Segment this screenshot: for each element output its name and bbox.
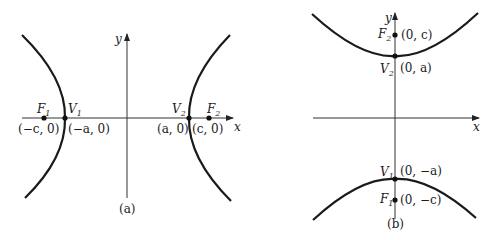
caption-a: (a) bbox=[119, 202, 136, 216]
panel-a: y x F1 V1 V2 F2 (−c, 0) (−a, 0) (a, 0) (… bbox=[18, 32, 241, 216]
label-v1-a: V1 bbox=[68, 102, 82, 118]
label-f1-b: F1 bbox=[379, 192, 393, 208]
coord-v1-a: (−a, 0) bbox=[68, 122, 110, 136]
coord-f1-b: (0, −c) bbox=[400, 193, 441, 207]
focus-f2-dot-b bbox=[392, 32, 397, 37]
vertex-v2-dot bbox=[186, 115, 191, 120]
label-f2-a: F2 bbox=[206, 102, 220, 118]
label-v2-a: V2 bbox=[172, 102, 186, 118]
hyperbola-figure: y x F1 V1 V2 F2 (−c, 0) (−a, 0) (a, 0) (… bbox=[0, 0, 492, 240]
coord-v2-a: (a, 0) bbox=[157, 122, 189, 136]
x-axis-label-b: x bbox=[473, 120, 480, 134]
panel-b: y x F2 V2 V1 F1 (0, c) (0, a) (0, −a) (0… bbox=[312, 11, 480, 231]
vertex-v1-dot bbox=[62, 115, 67, 120]
label-f1-a: F1 bbox=[36, 102, 50, 118]
y-axis-label-b: y bbox=[384, 11, 392, 25]
coord-v1-b: (0, −a) bbox=[400, 164, 442, 178]
vertex-v2-dot-b bbox=[392, 53, 397, 58]
caption-b: (b) bbox=[387, 217, 404, 231]
label-v1-b: V1 bbox=[380, 165, 394, 181]
coord-f2-a: (c, 0) bbox=[192, 122, 223, 136]
label-v2-b: V2 bbox=[380, 62, 394, 78]
y-axis-label-a: y bbox=[114, 32, 122, 46]
x-axis-label-a: x bbox=[234, 120, 241, 134]
focus-f2-dot bbox=[206, 115, 211, 120]
coord-f1-a: (−c, 0) bbox=[18, 122, 59, 136]
coord-v2-b: (0, a) bbox=[400, 61, 432, 75]
label-f2-b: F2 bbox=[377, 27, 391, 43]
coord-f2-b: (0, c) bbox=[401, 28, 432, 42]
